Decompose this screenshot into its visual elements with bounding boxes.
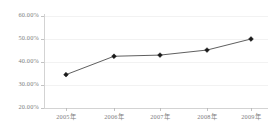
data-point-marker — [112, 54, 117, 59]
x-tick-label-2005: 2005年 — [56, 112, 76, 121]
x-tick-label-2009: 2009年 — [241, 112, 261, 121]
axes-group — [44, 14, 268, 108]
series-line-path — [66, 39, 251, 75]
y-axis-tick-labels: 60.00% 50.00% 40.00% 30.00% 20.00% — [18, 11, 39, 110]
y-tick-label-50: 50.00% — [18, 34, 39, 41]
x-axis-tick-labels: 2005年 2006年 2007年 2008年 2009年 — [56, 112, 261, 121]
y-tick-label-30: 30.00% — [18, 80, 39, 87]
data-point-marker — [64, 72, 69, 77]
chart-canvas: 60.00% 50.00% 40.00% 30.00% 20.00% 2005年… — [0, 0, 277, 132]
x-tick-marks-group — [66, 108, 251, 111]
x-tick-label-2008: 2008年 — [197, 112, 217, 121]
y-tick-label-60: 60.00% — [18, 11, 39, 18]
y-tick-label-20: 20.00% — [18, 103, 39, 110]
series-markers-group — [64, 37, 254, 77]
data-point-marker — [158, 53, 163, 58]
data-point-marker — [249, 37, 254, 42]
gridlines-group — [44, 16, 268, 85]
y-tick-label-40: 40.00% — [18, 57, 39, 64]
x-tick-label-2006: 2006年 — [104, 112, 124, 121]
data-point-marker — [205, 48, 210, 53]
line-chart-figure: 60.00% 50.00% 40.00% 30.00% 20.00% 2005年… — [0, 0, 277, 132]
x-tick-label-2007: 2007年 — [150, 112, 170, 121]
y-tick-marks-group — [41, 16, 44, 108]
